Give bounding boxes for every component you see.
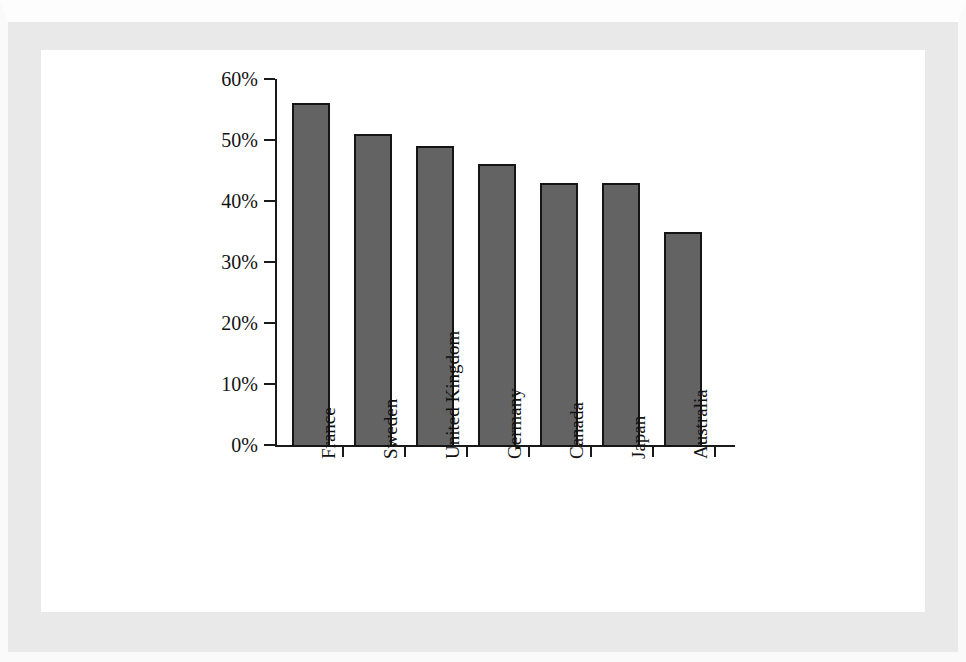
x-axis-category-label: France bbox=[319, 407, 338, 459]
y-axis-tick-label: 0% bbox=[231, 434, 258, 456]
y-axis-tick-label: 20% bbox=[221, 312, 258, 334]
bar bbox=[292, 103, 330, 447]
x-axis-category-label: Australia bbox=[691, 389, 710, 459]
x-axis-tick-mark bbox=[714, 447, 716, 457]
y-axis-tick-mark bbox=[264, 444, 275, 446]
x-axis-tick-mark bbox=[342, 447, 344, 457]
x-axis-tick-mark bbox=[590, 447, 592, 457]
scanned-page: 0%10%20%30%40%50%60% FranceSwedenUnited … bbox=[0, 0, 966, 662]
y-axis-line bbox=[275, 79, 277, 447]
x-axis-category-label: United Kingdom bbox=[443, 331, 462, 459]
bar-chart: 0%10%20%30%40%50%60% FranceSwedenUnited … bbox=[41, 50, 925, 612]
y-axis-tick-label: 50% bbox=[221, 129, 258, 151]
x-axis-tick-mark bbox=[404, 447, 406, 457]
y-axis-tick-label: 40% bbox=[221, 190, 258, 212]
x-axis-tick-mark bbox=[466, 447, 468, 457]
x-axis-category-label: Germany bbox=[505, 388, 524, 459]
y-axis-tick-mark bbox=[264, 200, 275, 202]
x-axis-category-label: Japan bbox=[629, 416, 648, 459]
x-axis-tick-mark bbox=[652, 447, 654, 457]
y-axis-tick-mark bbox=[264, 261, 275, 263]
y-axis-tick-label: 10% bbox=[221, 373, 258, 395]
x-axis-tick-mark bbox=[528, 447, 530, 457]
y-axis-tick-mark bbox=[264, 322, 275, 324]
bar bbox=[602, 183, 640, 447]
x-axis-category-label: Canada bbox=[567, 402, 586, 459]
y-axis-tick-label: 30% bbox=[221, 251, 258, 273]
y-axis-tick-mark bbox=[264, 383, 275, 385]
y-axis-tick-mark bbox=[264, 139, 275, 141]
chart-panel: 0%10%20%30%40%50%60% FranceSwedenUnited … bbox=[41, 50, 925, 612]
x-axis-category-label: Sweden bbox=[381, 399, 400, 459]
y-axis-tick-label: 60% bbox=[221, 68, 258, 90]
y-axis-tick-mark bbox=[264, 78, 275, 80]
